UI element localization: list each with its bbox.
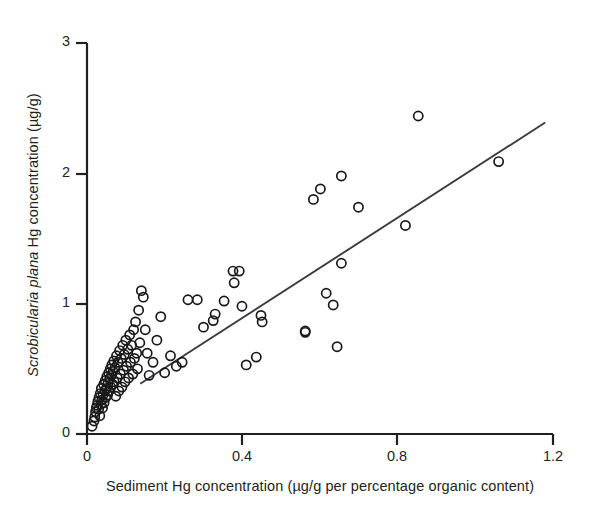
x-tick-label-0: 0 [72, 448, 102, 464]
data-point [258, 317, 267, 326]
data-point [337, 171, 346, 180]
data-point [337, 259, 346, 268]
data-point [309, 195, 318, 204]
data-point [235, 266, 244, 275]
data-point [401, 221, 410, 230]
data-point [141, 325, 150, 334]
data-point [230, 278, 239, 287]
data-point [322, 289, 331, 298]
data-point [329, 300, 338, 309]
y-tick-label-1: 1 [48, 294, 70, 310]
y-tick-label-3: 3 [48, 33, 70, 49]
data-point [160, 368, 169, 377]
data-point [414, 111, 423, 120]
data-point [316, 184, 325, 193]
data-point [135, 338, 144, 347]
data-point [156, 312, 165, 321]
scatter-plot-figure: 3 2 1 0 0 0.4 0.8 1.2 Scrobicularia plan… [0, 0, 590, 512]
y-axis-title-species: Scrobicularia plana [25, 252, 41, 377]
data-point [252, 353, 261, 362]
data-point [183, 295, 192, 304]
data-point [494, 157, 503, 166]
data-point [134, 306, 143, 315]
x-tick-label-1-2: 1.2 [537, 448, 569, 464]
data-point [354, 203, 363, 212]
y-axis-title-rest: Hg concentration (µg/g) [25, 93, 41, 251]
data-point [148, 358, 157, 367]
trend-line [140, 123, 545, 384]
x-tick-label-0-8: 0.8 [381, 448, 413, 464]
data-point [237, 302, 246, 311]
x-axis-title: Sediment Hg concentration (µg/g per perc… [60, 478, 580, 494]
data-point [199, 323, 208, 332]
data-point [143, 349, 152, 358]
data-point [219, 296, 228, 305]
data-point [166, 351, 175, 360]
data-point [242, 360, 251, 369]
plot-canvas [0, 0, 590, 512]
y-axis-title: Scrobicularia plana Hg concentration (µg… [16, 15, 50, 455]
data-point [332, 342, 341, 351]
data-points-group [87, 111, 503, 430]
axes-group [76, 43, 553, 445]
y-tick-label-0: 0 [48, 424, 70, 440]
y-tick-label-2: 2 [48, 164, 70, 180]
x-tick-label-0-4: 0.4 [226, 448, 258, 464]
data-point [152, 336, 161, 345]
data-point [193, 295, 202, 304]
